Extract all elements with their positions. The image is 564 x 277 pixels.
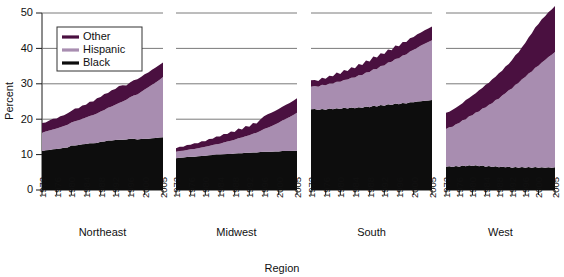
x-axis-tick-label: 1996 — [394, 177, 405, 198]
y-axis-tick-label: 20 — [21, 113, 33, 125]
x-axis-tick-label: 1972 — [306, 177, 317, 198]
panel-label-midwest: Midwest — [216, 226, 256, 238]
x-axis-tick-label: 1988 — [494, 177, 505, 198]
panel-label-south: South — [357, 226, 386, 238]
area-hispanic-south — [311, 40, 432, 110]
x-axis-tick-label: 1984 — [215, 177, 226, 198]
x-axis-tick-label: 1992 — [379, 177, 390, 198]
y-axis-tick-label: 40 — [21, 42, 33, 54]
x-axis-tick-label: 1972 — [441, 177, 452, 198]
x-axis-tick-label: 1992 — [244, 177, 255, 198]
x-axis-tick-label: 1996 — [125, 177, 136, 198]
x-axis-tick-label: 2005 — [550, 177, 561, 198]
legend-label-hispanic: Hispanic — [83, 43, 126, 55]
x-axis-tick-label: 1984 — [81, 177, 92, 198]
x-axis-tick-label: 1988 — [230, 177, 241, 198]
x-axis-tick-label: 2005 — [158, 177, 169, 198]
x-axis-tick-label: 1988 — [365, 177, 376, 198]
x-axis-tick-label: 1972 — [171, 177, 182, 198]
x-axis-tick-label: 1984 — [481, 177, 492, 198]
panel-label-west: West — [488, 226, 513, 238]
stacked-area-chart: 01020304050Percent1972197619801984198819… — [0, 0, 564, 277]
x-axis-tick-label: 2005 — [427, 177, 438, 198]
x-axis-tick-label: 1976 — [321, 177, 332, 198]
x-axis-tick-label: 1996 — [520, 177, 531, 198]
legend-label-other: Other — [83, 30, 111, 42]
x-axis-tick-label: 2000 — [533, 177, 544, 198]
x-axis-tick-label: 1980 — [335, 177, 346, 198]
x-axis-tick-label: 1992 — [507, 177, 518, 198]
x-axis-title: Region — [265, 262, 300, 274]
x-axis-tick-label: 1980 — [467, 177, 478, 198]
x-axis-tick-label: 1976 — [52, 177, 63, 198]
panel-label-northeast: Northeast — [79, 226, 127, 238]
y-axis-tick-label: 30 — [21, 77, 33, 89]
x-axis-tick-label: 2000 — [409, 177, 420, 198]
y-axis-tick-label: 50 — [21, 6, 33, 18]
x-axis-tick-label: 1976 — [454, 177, 465, 198]
x-axis-tick-label: 1988 — [96, 177, 107, 198]
x-axis-tick-label: 2005 — [292, 177, 303, 198]
x-axis-tick-label: 1980 — [200, 177, 211, 198]
x-axis-tick-label: 1984 — [350, 177, 361, 198]
area-black-south — [311, 100, 432, 190]
x-axis-tick-label: 2000 — [140, 177, 151, 198]
legend-label-black: Black — [83, 56, 110, 68]
x-axis-tick-label: 1972 — [37, 177, 48, 198]
x-axis-tick-label: 1992 — [110, 177, 121, 198]
y-axis-tick-label: 0 — [27, 183, 33, 195]
x-axis-tick-label: 1980 — [66, 177, 77, 198]
chart-figure: 01020304050Percent1972197619801984198819… — [0, 0, 564, 277]
y-axis-title: Percent — [3, 82, 15, 120]
x-axis-tick-label: 2000 — [274, 177, 285, 198]
y-axis-tick-label: 10 — [21, 148, 33, 160]
x-axis-tick-label: 1976 — [186, 177, 197, 198]
x-axis-tick-label: 1996 — [259, 177, 270, 198]
